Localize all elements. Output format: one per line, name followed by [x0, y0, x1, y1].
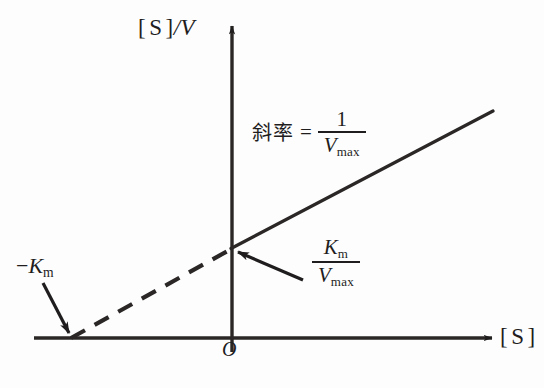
slope-numerator: 1 [329, 108, 356, 131]
y-intercept-denominator: Vmax [312, 263, 360, 288]
y-intercept-numerator: Km [316, 236, 356, 261]
x-axis-label-bracket-open: [ [500, 324, 508, 349]
x-intercept-variable: K [28, 253, 43, 278]
x-axis-label: [S] [500, 325, 536, 348]
y-axis-label-divider: / [174, 15, 181, 40]
y-intercept-annotation: Km Vmax [312, 236, 360, 288]
y-intercept-denominator-variable: V [318, 263, 331, 287]
slope-fraction: 1 Vmax [318, 108, 366, 158]
figure-canvas: [S]/V [S] O −Km 斜率 = 1 Vmax Km Vmax [0, 0, 544, 388]
x-axis-label-bracket-close: ] [527, 324, 535, 349]
y-axis-label-species: S [146, 15, 165, 40]
y-axis-label-bracket-open: [ [138, 15, 146, 40]
plot-svg [0, 0, 544, 388]
neg-km-callout-arrow [43, 283, 69, 333]
slope-denominator: Vmax [318, 133, 366, 158]
slope-equals-sign: = [299, 122, 313, 143]
y-intercept-denominator-subscript: max [331, 273, 354, 288]
x-intercept-label: −Km [16, 255, 54, 279]
y-axis-label: [S]/V [138, 16, 195, 39]
y-intercept-numerator-variable: K [324, 235, 338, 259]
origin-label: O [222, 339, 236, 359]
y-axis-label-variable: V [181, 15, 196, 40]
slope-denominator-variable: V [324, 133, 337, 157]
slope-label-text: 斜率 [252, 123, 294, 143]
x-intercept-subscript: m [43, 265, 54, 280]
regression-line-dashed [71, 248, 233, 338]
km-vmax-callout-arrow [238, 252, 303, 280]
slope-annotation: 斜率 = 1 Vmax [252, 108, 366, 158]
y-intercept-numerator-subscript: m [338, 246, 348, 261]
slope-denominator-subscript: max [337, 143, 360, 158]
x-axis-label-species: S [508, 324, 527, 349]
y-axis-label-bracket-close: ] [165, 15, 173, 40]
x-intercept-minus-sign: − [16, 253, 28, 278]
y-intercept-fraction: Km Vmax [312, 236, 360, 288]
